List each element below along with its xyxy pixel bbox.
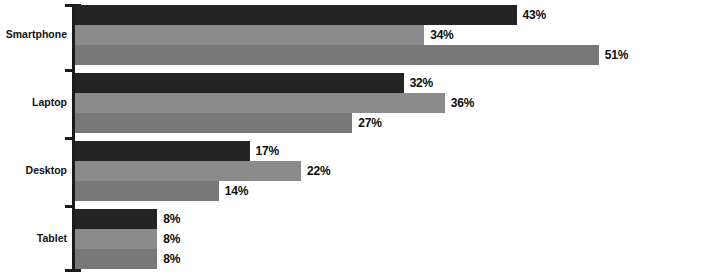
bar-value-label: 8% bbox=[163, 252, 180, 266]
bar-value-label: 34% bbox=[430, 28, 453, 42]
bar-smartphone-series2[interactable] bbox=[75, 25, 424, 45]
axis-cap-bottom bbox=[72, 269, 81, 272]
bar-chart: Smartphone43%34%51%Laptop32%36%27%Deskto… bbox=[0, 0, 713, 279]
axis-tick-1 bbox=[65, 69, 73, 72]
category-label-smartphone: Smartphone bbox=[5, 28, 67, 40]
bar-row: 43% bbox=[75, 5, 713, 25]
bar-value-label: 14% bbox=[225, 184, 248, 198]
axis-tick-4 bbox=[65, 269, 73, 272]
bar-value-label: 8% bbox=[163, 212, 180, 226]
bar-row: 14% bbox=[75, 181, 713, 201]
plot-area: Smartphone43%34%51%Laptop32%36%27%Deskto… bbox=[0, 0, 713, 279]
bar-value-label: 27% bbox=[358, 116, 381, 130]
category-label-desktop: Desktop bbox=[5, 164, 67, 176]
bar-laptop-series2[interactable] bbox=[75, 93, 445, 113]
bar-smartphone-series1[interactable] bbox=[75, 5, 517, 25]
bar-group-desktop: Desktop17%22%14% bbox=[75, 141, 713, 201]
bar-desktop-series1[interactable] bbox=[75, 141, 250, 161]
bar-value-label: 32% bbox=[410, 76, 433, 90]
bar-laptop-series1[interactable] bbox=[75, 73, 404, 93]
bar-row: 51% bbox=[75, 45, 713, 65]
axis-tick-2 bbox=[65, 137, 73, 140]
category-label-tablet: Tablet bbox=[5, 232, 67, 244]
bar-row: 8% bbox=[75, 209, 713, 229]
bar-row: 36% bbox=[75, 93, 713, 113]
bar-tablet-series2[interactable] bbox=[75, 229, 157, 249]
bar-value-label: 36% bbox=[451, 96, 474, 110]
bar-group-smartphone: Smartphone43%34%51% bbox=[75, 5, 713, 65]
bar-desktop-series2[interactable] bbox=[75, 161, 301, 181]
bar-row: 32% bbox=[75, 73, 713, 93]
bar-desktop-series3[interactable] bbox=[75, 181, 219, 201]
bar-row: 8% bbox=[75, 229, 713, 249]
bar-row: 22% bbox=[75, 161, 713, 181]
bar-value-label: 51% bbox=[605, 48, 628, 62]
bar-value-label: 43% bbox=[523, 8, 546, 22]
bar-group-tablet: Tablet8%8%8% bbox=[75, 209, 713, 269]
bar-smartphone-series3[interactable] bbox=[75, 45, 599, 65]
bar-group-laptop: Laptop32%36%27% bbox=[75, 73, 713, 133]
bar-laptop-series3[interactable] bbox=[75, 113, 352, 133]
bar-row: 27% bbox=[75, 113, 713, 133]
axis-tick-0 bbox=[65, 4, 73, 7]
category-label-laptop: Laptop bbox=[5, 96, 67, 108]
bar-value-label: 8% bbox=[163, 232, 180, 246]
bar-row: 34% bbox=[75, 25, 713, 45]
bar-value-label: 22% bbox=[307, 164, 330, 178]
bar-row: 17% bbox=[75, 141, 713, 161]
bar-tablet-series3[interactable] bbox=[75, 249, 157, 269]
bar-row: 8% bbox=[75, 249, 713, 269]
axis-tick-3 bbox=[65, 205, 73, 208]
bar-value-label: 17% bbox=[256, 144, 279, 158]
bar-tablet-series1[interactable] bbox=[75, 209, 157, 229]
